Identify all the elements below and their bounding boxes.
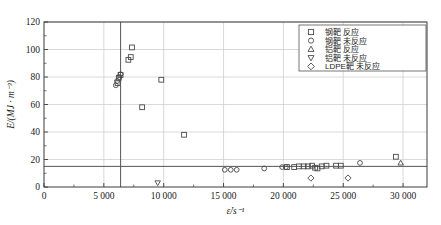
y-tick-label: 60 (31, 100, 41, 110)
data-point (140, 105, 145, 110)
data-point (182, 132, 187, 137)
legend-label: 钢靶 未反应 (325, 36, 367, 46)
data-point (324, 163, 329, 168)
data-point (345, 175, 351, 181)
scatter-plot: 02040608010012005 00010 00015 00020 0002… (0, 0, 441, 225)
y-tick-label: 100 (26, 45, 41, 55)
data-point (283, 165, 288, 170)
data-point (334, 163, 339, 168)
legend-label: 铝靶 反应 (325, 44, 359, 54)
data-point (222, 167, 227, 172)
legend-label: LDPE靶 未反应 (325, 61, 380, 71)
data-point (338, 163, 343, 168)
data-point (234, 167, 239, 172)
series-group (155, 181, 161, 186)
y-tick-label: 80 (31, 72, 41, 82)
data-point (308, 175, 314, 181)
legend-label: 铝靶 未反应 (325, 53, 367, 63)
x-tick-label: 15 000 (210, 191, 236, 201)
series-group (113, 72, 362, 172)
data-point (159, 77, 164, 82)
x-axis-title: ε̇/s⁻¹ (227, 206, 245, 216)
data-point (393, 154, 398, 159)
y-axis-title: E/(MJ · m⁻³) (6, 80, 17, 130)
x-tick-label: 10 000 (151, 191, 177, 201)
x-tick-label: 0 (42, 191, 47, 201)
y-tick-label: 40 (31, 127, 41, 137)
y-tick-label: 20 (31, 155, 41, 165)
series-group (308, 175, 351, 181)
legend-label: 钢靶 反应 (325, 27, 359, 37)
data-point (358, 161, 363, 166)
data-point (292, 165, 297, 170)
x-tick-label: 5 000 (93, 191, 115, 201)
data-point (130, 45, 135, 50)
y-tick-label: 0 (35, 182, 40, 192)
data-point (155, 181, 161, 186)
data-point (228, 167, 233, 172)
x-tick-label: 25 000 (330, 191, 356, 201)
y-tick-label: 120 (26, 17, 41, 27)
x-tick-label: 30 000 (390, 191, 416, 201)
x-tick-label: 20 000 (270, 191, 296, 201)
chart-legend: 钢靶 反应钢靶 未反应铝靶 反应铝靶 未反应LDPE靶 未反应 (299, 25, 426, 71)
series-group (398, 160, 404, 165)
data-point (398, 160, 404, 165)
chart-figure: 02040608010012005 00010 00015 00020 0002… (0, 0, 441, 225)
